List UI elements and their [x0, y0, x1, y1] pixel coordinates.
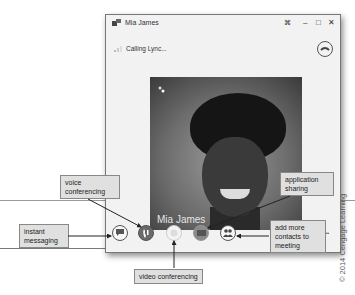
- callout-video-conferencing: video conferencing: [134, 269, 203, 284]
- signal-icon: [114, 46, 122, 52]
- callout-text: add more contacts to meeting: [275, 224, 309, 249]
- callout-text: instant messaging: [24, 228, 58, 244]
- minimize-button[interactable]: –: [303, 18, 307, 28]
- lync-call-window: Mia James ⌘ – □ ✕ Calling Lync... Mia Ja…: [105, 14, 341, 253]
- instant-messaging-button[interactable]: [112, 225, 128, 241]
- call-status: Calling Lync...: [126, 45, 167, 52]
- close-button[interactable]: ✕: [328, 18, 335, 28]
- callout-application-sharing: application sharing: [280, 172, 334, 196]
- callout-add-contacts: add more contacts to meeting: [270, 220, 326, 253]
- add-contacts-button[interactable]: [220, 225, 236, 241]
- video-icon: [170, 229, 178, 237]
- monitor-icon: [197, 230, 206, 237]
- video-quality-icon: [158, 86, 165, 93]
- window-title: Mia James: [125, 19, 159, 26]
- video-name-overlay: Mia James: [157, 214, 205, 225]
- callout-instant-messaging: instant messaging: [19, 224, 69, 248]
- application-sharing-button[interactable]: [193, 225, 209, 241]
- hang-up-icon: [318, 42, 332, 56]
- voice-conferencing-button[interactable]: [138, 225, 154, 241]
- video-conferencing-button[interactable]: [166, 225, 182, 241]
- chat-bubble-icon: [116, 229, 124, 237]
- video-feed: Mia James: [150, 77, 302, 230]
- lync-app-icon: [112, 19, 121, 27]
- contact-photo-face: [202, 137, 268, 217]
- maximize-button[interactable]: □: [316, 18, 321, 28]
- title-bar: Mia James ⌘ – □ ✕: [106, 15, 340, 33]
- people-icon: [223, 229, 233, 237]
- hang-up-button[interactable]: [317, 41, 333, 57]
- callout-text: voice conferencing: [65, 179, 105, 195]
- callout-text: application sharing: [285, 176, 318, 192]
- copyright-notice: © 2014 Cengage Learning: [338, 194, 347, 282]
- callout-voice-conferencing: voice conferencing: [60, 175, 120, 199]
- callout-text: video conferencing: [139, 273, 198, 280]
- divider-line: [0, 248, 105, 249]
- phone-icon: [142, 229, 150, 238]
- popout-button[interactable]: ⌘: [284, 18, 291, 28]
